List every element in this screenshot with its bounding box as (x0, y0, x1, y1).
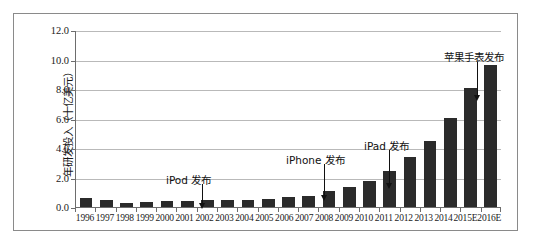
x-axis-tick-mark (95, 208, 96, 212)
y-axis-tick-label: 6.0 (27, 114, 69, 125)
x-axis-labels: 1996199719981999200020012002200320042005… (75, 213, 501, 223)
bar-slot (339, 31, 359, 207)
x-axis-tick-mark (359, 208, 360, 212)
x-axis-tick-mark (318, 208, 319, 212)
x-axis-tick-mark (481, 208, 482, 212)
y-axis-tick-label: 0.0 (27, 203, 69, 214)
bar (161, 201, 174, 207)
x-axis-tick-label: 2015E (454, 213, 478, 223)
x-axis-tick-label: 2008 (314, 213, 334, 223)
bar (404, 157, 417, 207)
x-axis-tick-mark (156, 208, 157, 212)
chart-frame: 年研发投入（十亿美元） 0.02.04.06.08.010.012.0 1996… (13, 13, 518, 231)
bar (100, 200, 113, 207)
bar-slot (319, 31, 339, 207)
x-axis-tick-label: 1997 (95, 213, 115, 223)
x-axis-tick-mark (136, 208, 137, 212)
x-axis-tick-label: 2007 (294, 213, 314, 223)
bar-slot (137, 31, 157, 207)
plot-area (75, 31, 501, 208)
bar (181, 201, 194, 207)
bar (343, 187, 356, 207)
bar (424, 141, 437, 207)
bar-slot (299, 31, 319, 207)
bar-slot (278, 31, 298, 207)
x-axis-tick-mark (420, 208, 421, 212)
bar (140, 202, 153, 207)
x-axis-tick-label: 2013 (414, 213, 434, 223)
y-axis-tick-label: 4.0 (27, 144, 69, 155)
x-axis-tick-mark (75, 208, 76, 212)
x-axis-tick-label: 2006 (274, 213, 294, 223)
x-axis-tick-mark (500, 208, 501, 212)
x-axis-tick-mark (440, 208, 441, 212)
bar-slot (400, 31, 420, 207)
x-axis-tick-label: 2010 (354, 213, 374, 223)
x-axis-tick-mark (116, 208, 117, 212)
bar (242, 200, 255, 207)
x-axis-tick-label: 1999 (135, 213, 155, 223)
bar (221, 200, 234, 207)
bar (464, 88, 477, 207)
x-axis-tick-label: 2004 (234, 213, 254, 223)
x-axis-tick-label: 2005 (254, 213, 274, 223)
x-axis-tick-mark (278, 208, 279, 212)
bar-slot (359, 31, 379, 207)
x-axis-tick-label: 1996 (75, 213, 95, 223)
bar (282, 197, 295, 207)
x-axis-tick-mark (400, 208, 401, 212)
x-axis-tick-label: 2002 (195, 213, 215, 223)
x-axis-tick-label: 2012 (394, 213, 414, 223)
annotation-label: iPad 发布 (364, 138, 409, 153)
x-axis-tick-label: 2009 (334, 213, 354, 223)
x-axis-tick-mark (298, 208, 299, 212)
x-axis-tick-label: 2000 (155, 213, 175, 223)
y-axis-tick-label: 8.0 (27, 85, 69, 96)
bar (484, 65, 497, 207)
bar-slot (258, 31, 278, 207)
annotation-label: 苹果手表发布 (444, 49, 504, 64)
y-axis-tick-label: 12.0 (27, 26, 69, 37)
x-axis-tick-mark (237, 208, 238, 212)
bar-slot (238, 31, 258, 207)
x-axis-tick-mark (460, 208, 461, 212)
bar (444, 118, 457, 207)
x-axis-tick-mark (217, 208, 218, 212)
bar-slot (116, 31, 136, 207)
bar-slot (420, 31, 440, 207)
bar-series (76, 31, 501, 207)
bar (262, 199, 275, 207)
x-axis-tick-label: 2001 (175, 213, 195, 223)
bar (302, 196, 315, 208)
y-axis-tick-label: 10.0 (27, 55, 69, 66)
annotation-label: iPhone 发布 (286, 152, 345, 167)
annotation-label: iPod 发布 (166, 172, 211, 187)
x-axis-tick-label: 2016E (477, 213, 501, 223)
x-axis-tick-label: 2003 (214, 213, 234, 223)
x-axis-tick-label: 2014 (434, 213, 454, 223)
x-axis-tick-mark (339, 208, 340, 212)
bar (120, 203, 133, 207)
y-axis-tick-label: 2.0 (27, 173, 69, 184)
bar (80, 198, 93, 207)
bar-slot (218, 31, 238, 207)
x-axis-tick-label: 2011 (374, 213, 394, 223)
x-axis-tick-label: 1998 (115, 213, 135, 223)
x-axis-tick-mark (258, 208, 259, 212)
x-axis-tick-mark (379, 208, 380, 212)
bar-slot (96, 31, 116, 207)
bar (363, 181, 376, 207)
x-axis-tick-mark (176, 208, 177, 212)
bar-slot (76, 31, 96, 207)
